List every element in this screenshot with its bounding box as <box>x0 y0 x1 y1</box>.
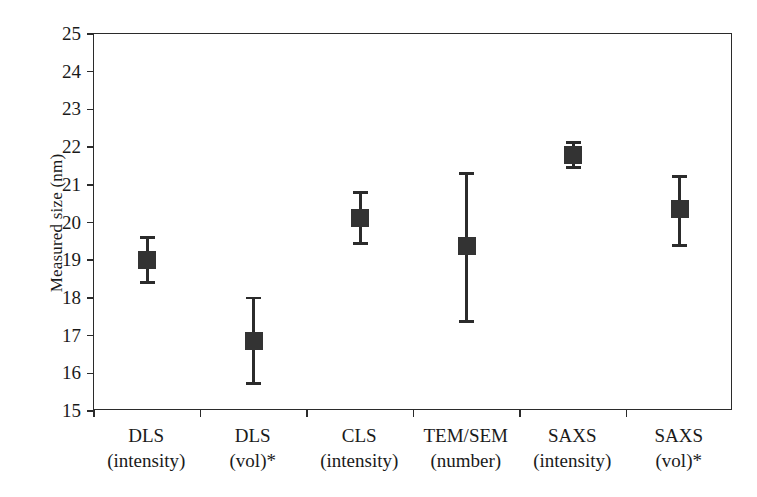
x-axis-label-line2: (vol)* <box>200 448 307 473</box>
x-axis-label-line1: SAXS <box>519 423 626 448</box>
plot-area: 2524232221201918171615 <box>93 33 732 410</box>
y-tick-mark <box>87 33 94 35</box>
x-axis-label-2: CLS(intensity) <box>306 423 413 473</box>
x-axis-label-line1: DLS <box>200 423 307 448</box>
y-tick-label: 23 <box>62 96 81 122</box>
error-bar-cap-lower <box>459 320 474 323</box>
error-bar-cap-lower <box>566 166 581 169</box>
x-axis-label-4: SAXS(intensity) <box>519 423 626 473</box>
x-axis-label-line2: (vol)* <box>626 448 733 473</box>
x-tick-mark <box>413 409 415 417</box>
y-tick-label: 19 <box>62 247 81 273</box>
error-bar-cap-upper <box>140 236 155 239</box>
x-axis-label-line1: CLS <box>306 423 413 448</box>
error-bar-cap-lower <box>140 281 155 284</box>
y-tick-mark <box>87 373 94 375</box>
x-axis-label-0: DLS(intensity) <box>93 423 200 473</box>
x-axis-label-line2: (intensity) <box>93 448 200 473</box>
measured-size-chart: Measured size (nm) 252423222120191817161… <box>0 0 757 497</box>
x-axis-label-5: SAXS(vol)* <box>626 423 733 473</box>
y-tick-mark <box>87 109 94 111</box>
y-tick-mark <box>87 335 94 337</box>
error-bar-cap-upper <box>672 175 687 178</box>
y-tick-label: 18 <box>62 285 81 311</box>
x-tick-mark <box>200 409 202 417</box>
error-bar-cap-upper <box>353 191 368 194</box>
x-axis-label-line2: (number) <box>413 448 520 473</box>
y-tick-mark <box>87 146 94 148</box>
x-axis-label-line1: DLS <box>93 423 200 448</box>
y-tick-label: 17 <box>62 323 81 349</box>
error-bar-cap-lower <box>246 382 261 385</box>
data-marker[interactable] <box>671 200 689 218</box>
y-tick-label: 25 <box>62 21 81 47</box>
y-tick-mark <box>87 297 94 299</box>
x-tick-mark <box>93 409 95 417</box>
y-tick-label: 22 <box>62 134 81 160</box>
x-axis-label-line2: (intensity) <box>306 448 413 473</box>
error-bar-cap-lower <box>672 244 687 247</box>
x-axis-label-line2: (intensity) <box>519 448 626 473</box>
data-marker[interactable] <box>138 251 156 269</box>
error-bar-cap-lower <box>353 242 368 245</box>
y-tick-mark <box>87 222 94 224</box>
x-axis-label-3: TEM/SEM(number) <box>413 423 520 473</box>
y-tick-label: 21 <box>62 172 81 198</box>
y-tick-label: 24 <box>62 59 81 85</box>
x-tick-mark <box>306 409 308 417</box>
y-tick-mark <box>87 71 94 73</box>
y-tick-label: 15 <box>62 398 81 424</box>
data-marker[interactable] <box>351 209 369 227</box>
data-marker[interactable] <box>458 237 476 255</box>
x-axis-label-line1: TEM/SEM <box>413 423 520 448</box>
error-bar-cap-upper <box>246 297 261 300</box>
x-axis-label-1: DLS(vol)* <box>200 423 307 473</box>
error-bar-cap-upper <box>459 172 474 175</box>
error-bar-cap-upper <box>566 141 581 144</box>
y-tick-label: 20 <box>62 210 81 236</box>
x-tick-mark <box>519 409 521 417</box>
x-axis-label-line1: SAXS <box>626 423 733 448</box>
data-marker[interactable] <box>564 146 582 164</box>
y-tick-mark <box>87 259 94 261</box>
x-tick-mark <box>626 409 628 417</box>
data-marker[interactable] <box>245 332 263 350</box>
y-tick-label: 16 <box>62 360 81 386</box>
y-tick-mark <box>87 184 94 186</box>
